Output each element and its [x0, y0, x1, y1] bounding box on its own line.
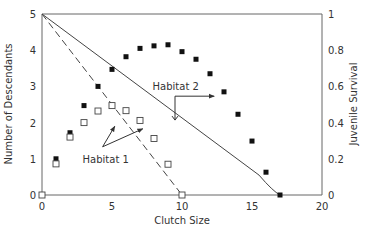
y2-tick-label: 0: [328, 190, 334, 201]
habitat1-point: [137, 117, 143, 123]
data-markers: [39, 42, 283, 198]
habitat2-point: [236, 112, 241, 117]
y2-tick-label: 0.8: [328, 45, 344, 56]
habitat2-point: [110, 67, 115, 72]
habitat1-point: [179, 192, 185, 198]
habitat2-survival-line: [42, 14, 280, 195]
habitat1-label: Habitat 1: [83, 154, 129, 165]
habitat2-point: [194, 57, 199, 62]
y-tick-label: 2: [30, 118, 36, 129]
y-tick-label: 5: [30, 9, 36, 20]
annotations: Habitat 1Habitat 2: [83, 81, 215, 164]
habitat1-point: [39, 192, 45, 198]
y2-tick-label: 0.4: [328, 118, 344, 129]
habitat2-point: [96, 84, 101, 89]
habitat2-point: [166, 42, 171, 47]
y2-tick-label: 1: [328, 9, 334, 20]
habitat2-point: [278, 193, 283, 198]
y-tick-label: 3: [30, 81, 36, 92]
habitat1-point: [123, 108, 129, 114]
habitat1-point: [95, 108, 101, 114]
x-tick-labels: 05101520: [39, 201, 329, 212]
chart: 05101520 012345 00.20.40.60.81 Habitat 1…: [0, 0, 366, 238]
x-tick-label: 20: [316, 201, 329, 212]
habitat2-point: [180, 49, 185, 54]
habitat1-point: [151, 136, 157, 142]
y-tick-label: 4: [30, 45, 36, 56]
y2-tick-labels: 00.20.40.60.81: [328, 9, 344, 201]
habitat1-point: [165, 161, 171, 167]
habitat2-point: [152, 43, 157, 48]
habitat2-label: Habitat 2: [153, 81, 199, 92]
x-tick-label: 10: [176, 201, 189, 212]
habitat2-point: [138, 46, 143, 51]
habitat2-point: [124, 54, 129, 59]
x-tick-label: 15: [246, 201, 259, 212]
habitat2-point: [264, 170, 269, 175]
habitat1-point: [81, 120, 87, 126]
y2-axis-title: Juvenile Survival: [348, 63, 359, 147]
y-tick-labels: 012345: [30, 9, 36, 201]
x-axis-title: Clutch Size: [154, 215, 210, 226]
y-tick-label: 1: [30, 154, 36, 165]
habitat2-point: [82, 103, 87, 108]
habitat1-point: [67, 134, 73, 140]
habitat1-point: [109, 103, 115, 109]
survival-lines: [42, 14, 280, 195]
habitat2-point: [208, 71, 213, 76]
x-tick-label: 0: [39, 201, 45, 212]
habitat2-point: [222, 89, 227, 94]
x-tick-label: 5: [109, 201, 115, 212]
y2-tick-label: 0.2: [328, 154, 344, 165]
habitat2-point: [250, 139, 255, 144]
habitat1-arrow: [103, 129, 143, 147]
habitat1-point: [53, 161, 59, 167]
y2-tick-label: 0.6: [328, 81, 344, 92]
y-axis-title: Number of Descendants: [3, 43, 14, 164]
y-tick-label: 0: [30, 190, 36, 201]
